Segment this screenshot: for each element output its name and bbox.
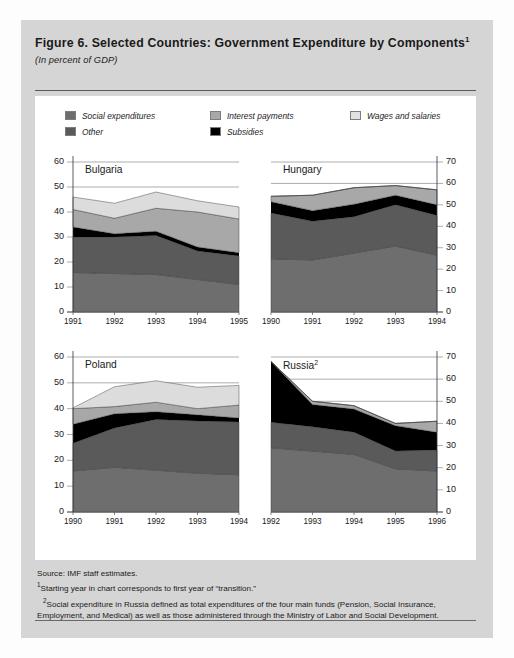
bottom-divider [35, 620, 476, 621]
legend-column-3: Wages and salaries [350, 108, 440, 124]
x-axis-label: 1992 [336, 317, 372, 326]
y-axis-label: 40 [446, 417, 467, 427]
y-axis-label: 60 [446, 177, 467, 187]
footnote-1-text: Starting year in chart corresponds to fi… [41, 584, 256, 593]
y-axis-label: 30 [43, 231, 64, 241]
y-axis-label: 20 [446, 263, 467, 273]
y-axis-label: 50 [43, 377, 64, 387]
legend-label-subsidies: Subsidies [227, 127, 263, 137]
footnote-source: Source: IMF staff estimates. [37, 568, 479, 579]
legend-item-social-expenditures: Social expenditures [65, 108, 155, 123]
y-axis-label: 0 [446, 306, 467, 316]
legend-swatch-interest-payments [210, 111, 221, 120]
x-axis-label: 1995 [378, 517, 414, 526]
y-axis-label: 20 [43, 454, 64, 464]
x-axis-label: 1994 [221, 517, 257, 526]
y-axis-label: 10 [43, 281, 64, 291]
x-axis-label: 1996 [419, 517, 455, 526]
chart-panel: Social expenditures Other Interest payme… [35, 96, 476, 560]
legend-item-wages-and-salaries: Wages and salaries [350, 108, 440, 123]
chart-title: Hungary [283, 164, 322, 175]
title-block: Figure 6. Selected Countries: Government… [35, 32, 475, 65]
figure-page: Figure 6. Selected Countries: Government… [0, 0, 514, 658]
footnote-2: 2Social expenditure in Russia defined as… [37, 595, 479, 622]
legend-swatch-subsidies [210, 127, 221, 136]
y-axis-label: 60 [43, 156, 64, 166]
y-axis-label: 0 [43, 506, 64, 516]
y-axis-label: 50 [446, 199, 467, 209]
figure-subtitle: (In percent of GDP) [35, 55, 475, 65]
x-axis-label: 1990 [55, 517, 91, 526]
title-divider [35, 90, 476, 91]
figure-title-text: Figure 6. Selected Countries: Government… [35, 36, 465, 50]
legend-swatch-other [65, 127, 76, 136]
x-axis-label: 1990 [253, 317, 289, 326]
y-axis-label: 40 [43, 403, 64, 413]
x-axis-label: 1991 [97, 517, 133, 526]
y-axis-label: 10 [43, 480, 64, 490]
footnotes: Source: IMF staff estimates. 1Starting y… [37, 568, 479, 621]
y-axis-label: 70 [446, 156, 467, 166]
legend-label-interest-payments: Interest payments [227, 111, 294, 121]
x-axis-label: 1992 [97, 317, 133, 326]
x-axis-label: 1991 [55, 317, 91, 326]
y-axis-label: 60 [43, 351, 64, 361]
y-axis-label: 30 [446, 440, 467, 450]
chart-title-footnote-marker: 2 [314, 359, 318, 366]
y-axis-label: 0 [446, 506, 467, 516]
legend-swatch-wages-and-salaries [350, 111, 361, 120]
figure-title-footnote-marker: 1 [465, 35, 470, 44]
x-axis-label: 1995 [221, 317, 257, 326]
y-axis-label: 20 [43, 256, 64, 266]
y-axis-label: 50 [43, 181, 64, 191]
y-axis-label: 10 [446, 484, 467, 494]
x-axis-label: 1991 [295, 317, 331, 326]
figure-title: Figure 6. Selected Countries: Government… [35, 32, 475, 52]
y-axis-label: 50 [446, 395, 467, 405]
legend-item-subsidies: Subsidies [210, 124, 294, 139]
legend: Social expenditures Other Interest payme… [65, 108, 465, 140]
x-axis-label: 1993 [295, 517, 331, 526]
legend-column-2: Interest payments Subsidies [210, 108, 294, 140]
chart-bulgaria: Bulgaria01020304050601991199219931994199… [43, 146, 253, 336]
y-axis-label: 70 [446, 351, 467, 361]
legend-label-social-expenditures: Social expenditures [82, 111, 155, 121]
x-axis-label: 1993 [138, 317, 174, 326]
legend-label-wages-and-salaries: Wages and salaries [367, 111, 440, 121]
y-axis-label: 60 [446, 373, 467, 383]
legend-label-other: Other [82, 127, 103, 137]
chart-title: Bulgaria [85, 164, 122, 175]
chart-title: Poland [85, 359, 117, 370]
y-axis-label: 10 [446, 285, 467, 295]
chart-russia: Russia2010203040506070199219931994199519… [257, 341, 467, 536]
x-axis-label: 1992 [138, 517, 174, 526]
figure-card: Figure 6. Selected Countries: Government… [21, 20, 493, 638]
y-axis-label: 20 [446, 462, 467, 472]
y-axis-label: 0 [43, 306, 64, 316]
legend-swatch-social-expenditures [65, 111, 76, 120]
x-axis-label: 1993 [180, 517, 216, 526]
chart-poland: Poland010203040506019901991199219931994 [43, 341, 253, 536]
y-axis-label: 40 [43, 206, 64, 216]
footnote-2-text: Social expenditure in Russia defined as … [37, 599, 439, 619]
legend-item-interest-payments: Interest payments [210, 108, 294, 123]
chart-svg [43, 341, 253, 536]
footnote-1: 1Starting year in chart corresponds to f… [37, 579, 479, 594]
legend-item-other: Other [65, 124, 155, 139]
y-axis-label: 30 [446, 242, 467, 252]
chart-title: Russia2 [283, 359, 318, 371]
x-axis-label: 1992 [253, 517, 289, 526]
x-axis-label: 1994 [336, 517, 372, 526]
x-axis-label: 1993 [378, 317, 414, 326]
y-axis-label: 30 [43, 429, 64, 439]
x-axis-label: 1994 [419, 317, 455, 326]
legend-column-1: Social expenditures Other [65, 108, 155, 140]
x-axis-label: 1994 [180, 317, 216, 326]
chart-hungary: Hungary010203040506070199019911992199319… [257, 146, 467, 336]
chart-svg [43, 146, 253, 336]
y-axis-label: 40 [446, 220, 467, 230]
